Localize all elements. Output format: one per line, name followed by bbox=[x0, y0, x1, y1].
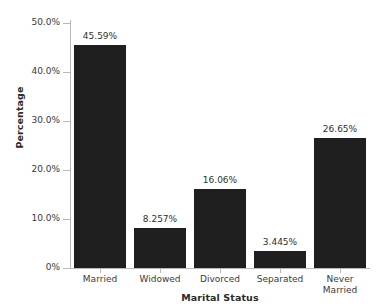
bar-value-label: 45.59% bbox=[60, 31, 140, 41]
y-tick-mark bbox=[63, 170, 70, 171]
y-tick-label: 30.0% bbox=[4, 115, 60, 125]
y-tick-label: 20.0% bbox=[4, 164, 60, 174]
bar-value-label: 16.06% bbox=[180, 175, 260, 185]
x-tick-label: Never Married bbox=[300, 274, 378, 296]
x-tick-mark bbox=[340, 268, 341, 273]
x-tick-mark bbox=[280, 268, 281, 273]
y-tick-label: 0% bbox=[4, 262, 60, 272]
y-tick-label: 40.0% bbox=[4, 66, 60, 76]
bar-value-label: 26.65% bbox=[300, 124, 378, 134]
y-tick-mark bbox=[63, 121, 70, 122]
x-tick-mark bbox=[160, 268, 161, 273]
x-tick-mark bbox=[100, 268, 101, 273]
y-tick-label: 50.0% bbox=[4, 17, 60, 27]
bar bbox=[74, 45, 126, 268]
bar-value-label: 8.257% bbox=[120, 214, 200, 224]
bar bbox=[314, 138, 366, 268]
y-tick-mark bbox=[63, 23, 70, 24]
bar-chart: Percentage Marital Status 0%10.0%20.0%30… bbox=[0, 0, 378, 308]
y-tick-mark bbox=[63, 268, 70, 269]
y-axis-spine bbox=[70, 20, 71, 269]
bar bbox=[134, 228, 186, 268]
bar bbox=[194, 189, 246, 268]
y-tick-label: 10.0% bbox=[4, 213, 60, 223]
y-tick-mark bbox=[63, 219, 70, 220]
bar bbox=[254, 251, 306, 268]
x-tick-mark bbox=[220, 268, 221, 273]
y-tick-mark bbox=[63, 72, 70, 73]
bar-value-label: 3.445% bbox=[240, 237, 320, 247]
